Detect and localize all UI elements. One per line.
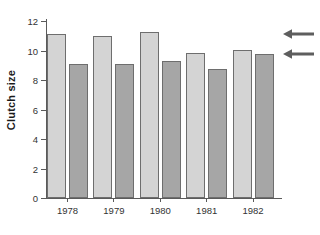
bar-1980-light-bars bbox=[140, 32, 159, 198]
clutch-size-bar-chart: Clutch size 024681012 197819791980198119… bbox=[0, 0, 320, 235]
bar-1981-light-bars bbox=[186, 53, 205, 198]
y-tick-label: 12 bbox=[0, 16, 38, 27]
x-tick-mark bbox=[206, 198, 207, 202]
y-tick-mark bbox=[41, 110, 46, 111]
y-tick-mark bbox=[41, 51, 46, 52]
x-tick-mark bbox=[113, 198, 114, 202]
y-tick-mark bbox=[41, 139, 46, 140]
y-tick-mark bbox=[41, 198, 46, 199]
upper-arrow-icon bbox=[283, 28, 315, 40]
bar-1978-dark-bars bbox=[69, 64, 88, 198]
bar-1982-dark-bars bbox=[255, 54, 274, 198]
x-tick-label-1979: 1979 bbox=[92, 205, 136, 216]
x-tick-mark bbox=[160, 198, 161, 202]
bar-1978-light-bars bbox=[47, 34, 66, 198]
y-tick-mark bbox=[41, 80, 46, 81]
bar-1979-light-bars bbox=[93, 36, 112, 198]
bar-1980-dark-bars bbox=[162, 61, 181, 198]
y-tick-label: 10 bbox=[0, 45, 38, 56]
bar-1981-dark-bars bbox=[208, 69, 227, 198]
x-tick-mark bbox=[253, 198, 254, 202]
x-tick-label-1982: 1982 bbox=[231, 205, 275, 216]
x-tick-label-1981: 1981 bbox=[185, 205, 229, 216]
x-tick-label-1980: 1980 bbox=[138, 205, 182, 216]
y-tick-label: 0 bbox=[0, 193, 38, 204]
y-tick-label: 8 bbox=[0, 75, 38, 86]
y-tick-mark bbox=[41, 169, 46, 170]
bar-1982-light-bars bbox=[233, 50, 252, 198]
lower-arrow-icon bbox=[283, 48, 315, 60]
x-tick-label-1978: 1978 bbox=[46, 205, 90, 216]
bar-1979-dark-bars bbox=[115, 64, 134, 198]
y-tick-label: 6 bbox=[0, 104, 38, 115]
y-tick-label: 2 bbox=[0, 163, 38, 174]
x-axis-line bbox=[46, 198, 282, 199]
y-tick-label: 4 bbox=[0, 134, 38, 145]
x-tick-mark bbox=[67, 198, 68, 202]
y-tick-mark bbox=[41, 21, 46, 22]
